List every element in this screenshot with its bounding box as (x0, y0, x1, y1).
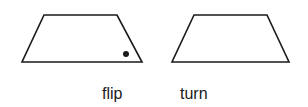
flip-marker-dot (123, 51, 129, 57)
diagram-canvas (0, 0, 308, 107)
turn-trapezoid (172, 15, 289, 62)
turn-label: turn (180, 86, 208, 102)
flip-label: flip (102, 86, 122, 102)
